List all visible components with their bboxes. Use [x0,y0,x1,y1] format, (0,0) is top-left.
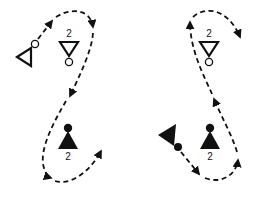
attacker-filled-triangle-icon [158,124,182,151]
player-label: 2 [207,151,213,162]
run-path-arrow [181,152,199,174]
defender-open-icon: 2 [200,28,218,66]
run-path-arrow [193,11,240,37]
run-path-arrow [55,151,101,182]
run-path-arrow [205,160,238,180]
run-path-arrow [43,101,66,178]
run-path-arrow [214,99,237,152]
player-label: 2 [66,28,72,39]
left-diagram: 2 2 [17,11,101,182]
player-label: 2 [65,151,71,162]
defender-filled-icon: 2 [58,124,78,162]
defender-open-icon: 2 [60,28,78,66]
drill-diagram: 2 2 2 [0,0,259,201]
right-diagram: 2 2 [158,11,240,180]
player-label: 2 [206,28,212,39]
defender-filled-icon: 2 [200,124,220,162]
attacker-open-triangle-icon [17,40,39,66]
run-path-arrow [38,21,52,39]
run-path-arrow [56,11,93,27]
